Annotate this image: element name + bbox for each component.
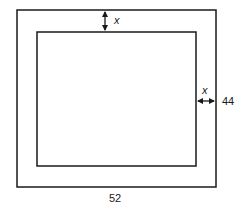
inner-rectangle [37, 32, 196, 166]
top-border-label: x [113, 14, 120, 26]
outer-rectangle [17, 10, 216, 187]
frame-diagram: x x 44 52 [0, 0, 248, 212]
height-label: 44 [222, 95, 234, 107]
right-border-label: x [201, 84, 208, 96]
width-label: 52 [109, 192, 121, 204]
